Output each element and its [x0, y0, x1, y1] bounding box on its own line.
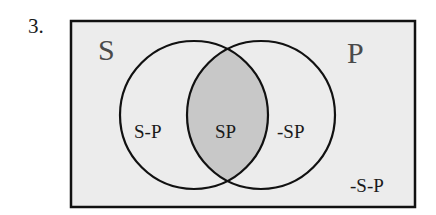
label-s: S: [98, 33, 115, 66]
venn-diagram: S P S-P SP -SP -S-P: [0, 0, 436, 215]
region-intersection: SP: [215, 121, 236, 142]
region-outside: -S-P: [350, 175, 384, 196]
region-p-only: -SP: [277, 121, 304, 142]
region-s-only: S-P: [134, 121, 161, 142]
label-p: P: [347, 36, 364, 69]
